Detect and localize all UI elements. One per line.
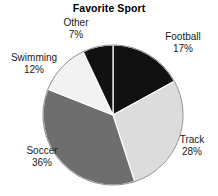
slice-label-track-value: 28% — [168, 146, 216, 158]
slice-label-soccer-value: 36% — [14, 157, 70, 169]
slice-label-football-value: 17% — [152, 43, 214, 55]
slice-label-other-value: 7% — [50, 29, 102, 41]
slice-label-swimming-name: Swimming — [2, 52, 66, 64]
slice-label-track-name: Track — [168, 134, 216, 146]
slice-label-soccer-name: Soccer — [14, 145, 70, 157]
slice-label-soccer: Soccer 36% — [14, 145, 70, 168]
slice-label-other-name: Other — [50, 17, 102, 29]
slice-label-swimming-value: 12% — [2, 64, 66, 76]
slice-label-track: Track 28% — [168, 134, 216, 157]
pie-chart: Favorite Sport Other 7% Football 17% Swi… — [0, 0, 218, 196]
slice-label-other: Other 7% — [50, 17, 102, 40]
slice-label-football: Football 17% — [152, 31, 214, 54]
slice-label-swimming: Swimming 12% — [2, 52, 66, 75]
slice-label-football-name: Football — [152, 31, 214, 43]
